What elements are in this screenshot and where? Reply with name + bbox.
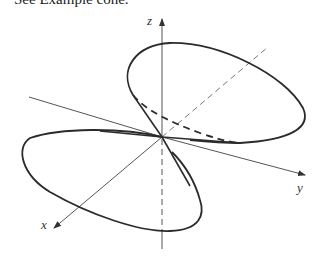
cone-diagram: z x y — [0, 0, 327, 259]
x-axis — [54, 137, 162, 228]
upper-ellipse — [128, 43, 305, 143]
z-axis-label: z — [146, 13, 152, 28]
upper-cone-generator-left — [133, 95, 162, 137]
y-axis-label: y — [295, 180, 303, 195]
lower-ellipse — [22, 130, 201, 231]
x-axis-label: x — [40, 217, 47, 232]
lower-cone-generator-right — [162, 137, 190, 186]
